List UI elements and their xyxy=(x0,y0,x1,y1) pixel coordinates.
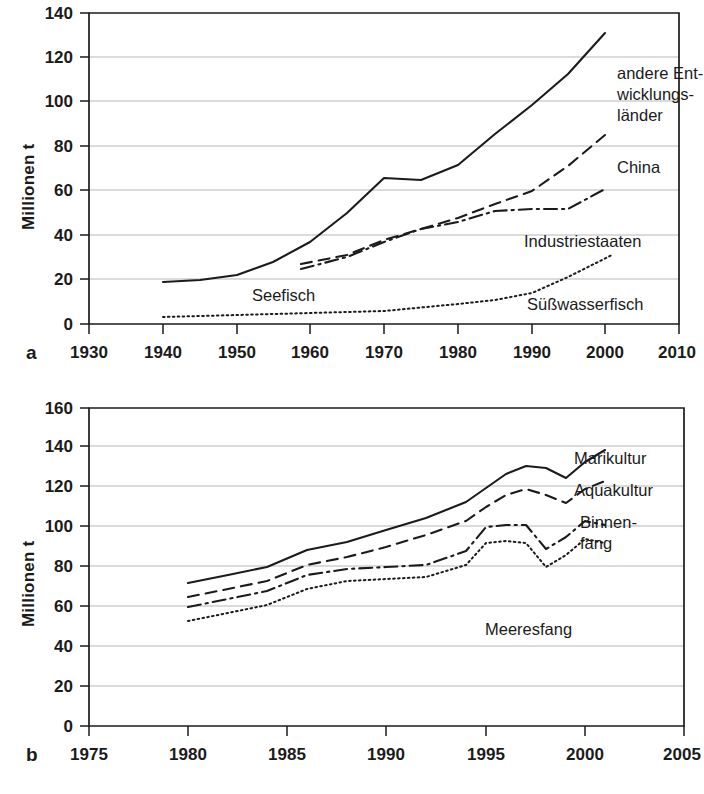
panel-a-xtick-2000: 2000 xyxy=(586,343,624,362)
panel-b-y-axis-title: Millionen t xyxy=(19,541,38,627)
panel-a-xtick-marks xyxy=(89,324,679,334)
panel-b-ytick-60: 60 xyxy=(54,597,73,616)
panel-b-ytick-140: 140 xyxy=(45,437,73,456)
panel-b-ytick-160: 160 xyxy=(45,399,73,418)
panel-b-ytick-80: 80 xyxy=(54,557,73,576)
label-suesswasserfisch: Süßwasserfisch xyxy=(527,295,643,313)
panel-a-xtick-1950: 1950 xyxy=(218,343,256,362)
panel-b-ytick-40: 40 xyxy=(54,637,73,656)
panel-a-letter: a xyxy=(26,342,37,363)
panel-a-xtick-1980: 1980 xyxy=(439,343,477,362)
panel-a-xtick-1990: 1990 xyxy=(513,343,551,362)
panel-b-letter: b xyxy=(26,744,38,765)
panel-b-xtick-1990: 1990 xyxy=(367,745,405,764)
panel-a-ytick-80: 80 xyxy=(54,137,73,156)
panel-a-ytick-20: 20 xyxy=(54,270,73,289)
label-andere-entwicklungslaender-line2: wicklungs- xyxy=(616,85,694,103)
panel-a-ytick-140: 140 xyxy=(45,4,73,23)
series-marikultur xyxy=(188,450,605,583)
panel-a-plot: 140 120 100 80 60 40 20 0 Millionen t 19… xyxy=(0,0,704,397)
panel-b-ytick-20: 20 xyxy=(54,677,73,696)
panel-b-xtick-marks xyxy=(89,726,684,736)
panel-b: 160 140 120 100 80 60 40 20 0 Millionen … xyxy=(0,397,704,794)
panel-a-ytick-40: 40 xyxy=(54,226,73,245)
panel-a: 140 120 100 80 60 40 20 0 Millionen t 19… xyxy=(0,0,704,397)
fishery-production-figure: 140 120 100 80 60 40 20 0 Millionen t 19… xyxy=(0,0,704,794)
panel-a-y-axis-title: Millionen t xyxy=(19,144,38,230)
label-industriestaaten: Industriestaaten xyxy=(524,232,641,250)
panel-a-ytick-120: 120 xyxy=(45,48,73,67)
series-aquakultur xyxy=(188,481,605,597)
panel-b-xtick-2000: 2000 xyxy=(566,745,604,764)
label-andere-entwicklungslaender-line1: andere Ent- xyxy=(617,64,703,82)
panel-b-series xyxy=(188,450,605,621)
series-industriestaaten xyxy=(301,189,605,269)
label-binnenfang-line2: fang xyxy=(580,534,612,552)
label-binnenfang-line1: Binnen- xyxy=(580,513,637,531)
panel-b-xtick-2005: 2005 xyxy=(663,745,701,764)
panel-a-xtick-1940: 1940 xyxy=(144,343,182,362)
panel-a-frame xyxy=(89,13,679,324)
panel-b-ytick-120: 120 xyxy=(45,477,73,496)
panel-b-ytick-0: 0 xyxy=(64,717,73,736)
panel-a-ytick-0: 0 xyxy=(64,315,73,334)
label-meeresfang: Meeresfang xyxy=(485,620,572,638)
label-china: China xyxy=(617,158,661,176)
panel-a-xtick-1970: 1970 xyxy=(365,343,403,362)
label-marikultur: Marikultur xyxy=(574,449,647,467)
panel-b-xtick-1995: 1995 xyxy=(467,745,505,764)
series-meeresfang xyxy=(188,539,605,621)
panel-a-ytick-marks xyxy=(80,13,89,324)
label-seefisch: Seefisch xyxy=(252,286,315,304)
panel-a-xtick-1960: 1960 xyxy=(291,343,329,362)
label-aquakultur: Aquakultur xyxy=(574,481,653,499)
panel-b-xtick-1985: 1985 xyxy=(268,745,306,764)
panel-b-ytick-marks xyxy=(80,408,89,726)
panel-b-xtick-1980: 1980 xyxy=(169,745,207,764)
panel-a-series xyxy=(163,33,612,317)
panel-b-ytick-100: 100 xyxy=(45,517,73,536)
panel-b-plot: 160 140 120 100 80 60 40 20 0 Millionen … xyxy=(0,397,704,794)
panel-a-ytick-60: 60 xyxy=(54,181,73,200)
label-andere-entwicklungslaender-line3: länder xyxy=(617,106,663,124)
panel-a-ytick-100: 100 xyxy=(45,92,73,111)
panel-b-xtick-1975: 1975 xyxy=(70,745,108,764)
panel-a-xtick-1930: 1930 xyxy=(70,343,108,362)
panel-a-xtick-2010: 2010 xyxy=(658,343,696,362)
